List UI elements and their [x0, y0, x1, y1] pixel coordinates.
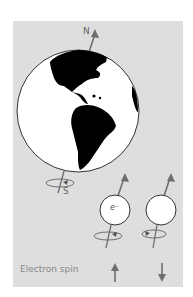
south-label: S: [63, 186, 69, 196]
diagram-canvas: [0, 0, 193, 297]
north-label: N: [83, 26, 90, 36]
electron-symbol: e⁻: [110, 203, 119, 212]
earth-globe: [17, 50, 139, 173]
caption: Electron spin: [20, 264, 78, 274]
figure: N S e⁻ Electron spin: [0, 0, 193, 297]
